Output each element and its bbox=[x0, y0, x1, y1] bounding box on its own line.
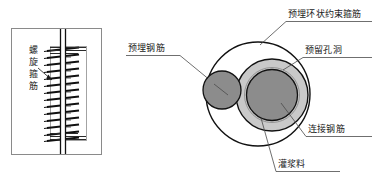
spiral-stirrup-char-2: 旋 bbox=[28, 56, 39, 68]
technical-diagram-page: 螺 旋 箍 筋 预埋钢筋 预埋环状约束箍筋 预留孔洞 连接钢筋 灌浆料 bbox=[0, 0, 377, 183]
ring-stirrup-leader bbox=[260, 22, 372, 46]
spiral-stirrup-char-1: 螺 bbox=[28, 44, 39, 56]
connecting-rebar-circle bbox=[247, 70, 298, 121]
grouting-material-label: 灌浆料 bbox=[278, 159, 306, 170]
vertical-rebar bbox=[60, 29, 66, 154]
spiral-stirrup-char-3: 箍 bbox=[28, 68, 39, 80]
reserved-hole-label: 预留孔洞 bbox=[305, 45, 342, 56]
right-section-view bbox=[203, 22, 372, 172]
ring-stirrup-label: 预埋环状约束箍筋 bbox=[288, 9, 362, 20]
spiral-stirrup-label: 螺 旋 箍 筋 bbox=[28, 44, 39, 92]
left-elevation-view bbox=[12, 29, 102, 155]
embedded-rebar-label: 预埋钢筋 bbox=[128, 43, 165, 54]
diagram-canvas bbox=[0, 0, 377, 183]
connecting-rebar-label: 连接钢筋 bbox=[308, 124, 345, 135]
spiral-stirrup-char-4: 筋 bbox=[28, 80, 39, 92]
